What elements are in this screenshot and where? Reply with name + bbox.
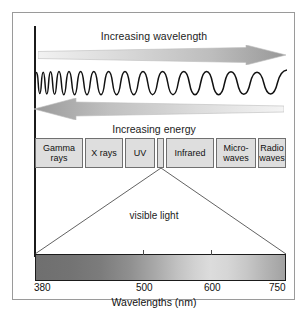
spectrum-band-row: Gammarays X rays UV Infrared Micro-waves… (35, 138, 286, 168)
band-gamma-rays[interactable]: Gammarays (35, 138, 83, 168)
axis-tick-600 (211, 250, 212, 255)
band-visible-light[interactable] (157, 138, 164, 168)
visible-spectrum-bar-wrap (35, 254, 286, 281)
axis-label-380: 380 (34, 282, 51, 293)
electromagnetic-waveform (35, 63, 287, 103)
axis-title: Wavelengths (nm) (20, 296, 288, 308)
band-label: Radiowaves (259, 143, 285, 164)
spectrum-figure: Increasing wavelength (0, 0, 308, 314)
band-label: Gammarays (43, 143, 75, 164)
increasing-energy-arrow (34, 98, 284, 120)
axis-label-500: 500 (136, 282, 153, 293)
band-microwaves[interactable]: Micro-waves (216, 138, 256, 168)
axis-tick-labels: 380 500 600 750 (20, 282, 288, 296)
axis-label-600: 600 (204, 282, 221, 293)
band-label: X rays (91, 148, 117, 159)
band-uv[interactable]: UV (125, 138, 155, 168)
visible-light-label: visible light (20, 210, 288, 221)
increasing-energy-label: Increasing energy (20, 123, 288, 135)
band-x-rays[interactable]: X rays (85, 138, 123, 168)
axis-label-750: 750 (269, 282, 286, 293)
visible-spectrum-bar (35, 254, 286, 281)
diagram-plot-area: Increasing wavelength (20, 20, 288, 294)
band-infrared[interactable]: Infrared (166, 138, 214, 168)
axis-tick-500 (143, 250, 144, 255)
band-label: Infrared (174, 148, 205, 159)
band-radio-waves[interactable]: Radiowaves (258, 138, 286, 168)
increasing-wavelength-label: Increasing wavelength (20, 30, 288, 42)
band-label: Micro-waves (223, 143, 249, 164)
band-label: UV (134, 148, 147, 159)
increasing-wavelength-arrow (38, 45, 286, 65)
